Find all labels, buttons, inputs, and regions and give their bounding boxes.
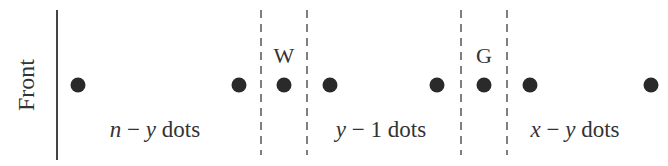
marker-g: G — [476, 43, 492, 68]
group-label-2: y − 1 dots — [334, 117, 426, 142]
dot-w — [277, 78, 292, 93]
dot — [644, 78, 659, 93]
group-label-3: x − y dots — [529, 117, 619, 142]
dot — [232, 78, 247, 93]
front-label: Front — [13, 59, 39, 111]
dot-g — [477, 78, 492, 93]
marker-w: W — [274, 43, 295, 68]
dot — [71, 78, 86, 93]
dot — [523, 78, 538, 93]
dot — [430, 78, 445, 93]
group-label-1: n − y dots — [110, 117, 200, 142]
dots — [71, 78, 659, 93]
dot — [323, 78, 338, 93]
queue-diagram: Front W G n − y dots y − 1 dots x − y do… — [0, 0, 668, 166]
